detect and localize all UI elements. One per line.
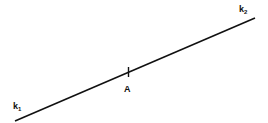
line-diagram: A k1 k2	[0, 0, 268, 123]
label-k1: k1	[13, 101, 22, 112]
label-k2: k2	[239, 4, 248, 15]
line-k1-k2	[15, 18, 255, 121]
point-a-label: A	[124, 84, 131, 94]
